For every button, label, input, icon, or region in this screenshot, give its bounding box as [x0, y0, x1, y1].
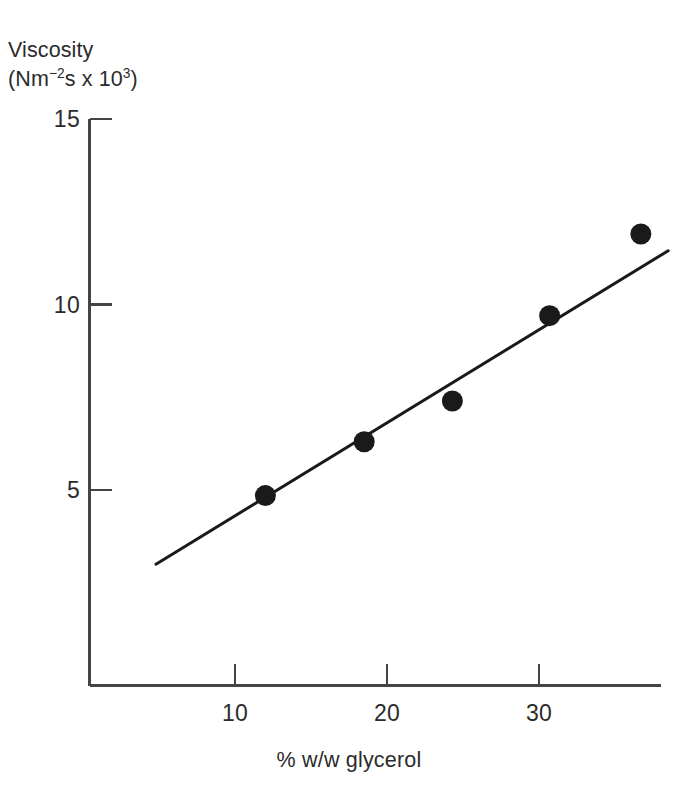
y-axis-label-line1: Viscosity	[8, 38, 93, 62]
y-axis-label-unit-mid: s x 10	[65, 67, 123, 91]
x-tick-label-20: 20	[374, 700, 400, 727]
y-tick-label-15: 15	[20, 106, 80, 133]
plot-area	[0, 0, 698, 799]
y-axis-label-line2: (Nm−2s x 103)	[8, 65, 138, 94]
trend-line	[156, 251, 668, 564]
data-point	[354, 431, 375, 452]
y-tick-label-10: 10	[20, 291, 80, 318]
data-point	[539, 305, 560, 326]
x-tick-label-30: 30	[526, 700, 552, 727]
y-tick-label-5: 5	[20, 477, 80, 504]
data-point	[255, 485, 276, 506]
x-axis-label: % w/w glycerol	[0, 748, 698, 773]
data-point	[630, 224, 651, 245]
chart-axes	[90, 119, 662, 686]
chart-ticks	[90, 119, 540, 686]
x-tick-label-10: 10	[222, 700, 248, 727]
viscosity-glycerol-chart: Viscosity (Nm−2s x 103) 51015 102030 % w…	[0, 0, 698, 799]
y-axis-label: Viscosity (Nm−2s x 103)	[8, 36, 138, 93]
data-point	[442, 390, 463, 411]
y-axis-label-unit-prefix: (Nm	[8, 67, 49, 91]
fit-line-segment	[156, 251, 668, 564]
y-axis-label-exponent-3: 3	[123, 65, 131, 80]
data-points	[255, 224, 651, 507]
y-axis-label-exponent-minus2: −2	[49, 65, 65, 80]
y-axis-label-unit-suffix: )	[131, 67, 138, 91]
